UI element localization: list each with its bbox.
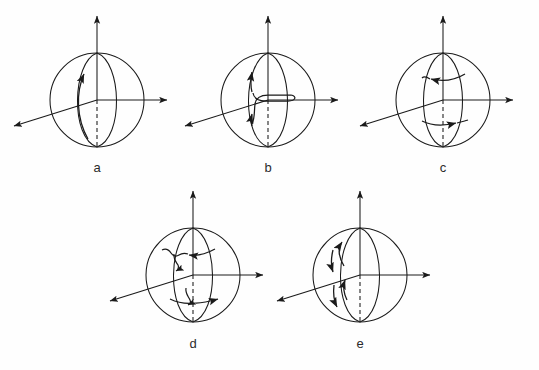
panel-label-d: d [189, 336, 196, 351]
panel-label-c: c [440, 160, 447, 175]
panel-label-b: b [264, 160, 271, 175]
panel-label-e: e [356, 336, 363, 351]
panel-label-a: a [93, 160, 101, 175]
physics-sphere-figure: a b c [0, 0, 539, 370]
